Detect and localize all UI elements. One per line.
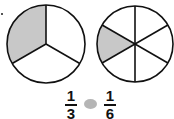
circle-sixths — [97, 6, 173, 82]
circle-thirds — [7, 5, 85, 83]
comparison-blank[interactable] — [84, 99, 97, 109]
denominator: 3 — [67, 105, 75, 119]
shaded-sixth — [97, 25, 135, 63]
fraction-one-third: 1 3 — [63, 89, 79, 119]
denominator: 6 — [106, 105, 114, 119]
numerator: 1 — [67, 87, 75, 104]
fraction-one-sixth: 1 6 — [102, 89, 118, 119]
numerator: 1 — [106, 87, 114, 104]
